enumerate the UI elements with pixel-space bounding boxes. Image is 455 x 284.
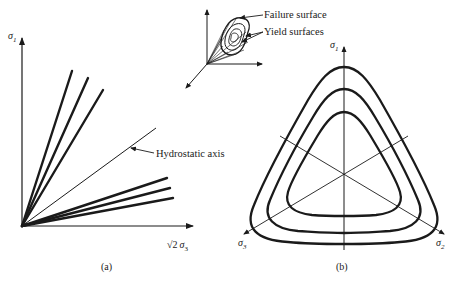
lower-meridian-lines xyxy=(22,178,173,226)
yield-surfaces-label: Yield surfaces xyxy=(264,26,324,37)
sigma1-label-b: σ1 xyxy=(330,39,338,53)
panel-b: σ1 σ2 σ3 (b) xyxy=(238,39,445,273)
sigma2-label-b: σ2 xyxy=(436,237,445,251)
failure-surface-label: Failure surface xyxy=(264,9,327,20)
sigma2-axis-b xyxy=(280,136,444,234)
sigma3-axis-b xyxy=(244,136,408,234)
hydrostatic-axis-label: Hydrostatic axis xyxy=(156,148,225,159)
sqrt2-sigma3-label: √2σ3 xyxy=(167,239,188,253)
sigma3-label-b: σ3 xyxy=(238,237,247,251)
inset-3d-surfaces: Failure surface Yield surfaces xyxy=(186,9,327,88)
inset-diagonal-axis xyxy=(186,64,207,88)
hydrostatic-axis xyxy=(22,128,156,226)
caption-b: (b) xyxy=(336,261,348,273)
yield-leader-arrow-2 xyxy=(242,32,263,42)
hydrostatic-leader-arrow xyxy=(131,148,154,153)
yield-failure-diagram: Hydrostatic axis σ1 √2σ3 (a) xyxy=(0,0,455,284)
caption-a: (a) xyxy=(101,261,112,273)
sigma1-label-a: σ1 xyxy=(8,30,16,44)
panel-a: Hydrostatic axis σ1 √2σ3 (a) xyxy=(8,30,225,273)
yield-leader-arrow-1 xyxy=(246,32,263,36)
failure-leader-arrow xyxy=(240,15,263,18)
